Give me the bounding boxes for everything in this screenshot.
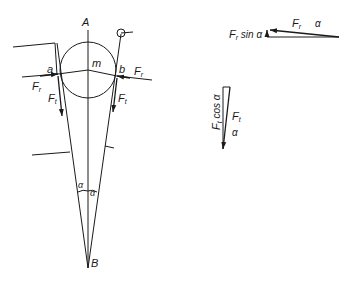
triangle-v-label-alpha: α [232, 127, 238, 138]
label-Fr-right: Fr [134, 65, 144, 78]
label-a: a [47, 63, 53, 75]
Ft-arrow-left [58, 76, 62, 116]
label-b: b [119, 63, 125, 75]
left-wall-bottom [32, 152, 70, 155]
triangle-h-Fr-arrow [270, 30, 339, 37]
label-A: A [81, 16, 89, 28]
force-diagram-canvas: A B m a b Fr Fr Ft Ft α α Fr sin α Fr α … [0, 0, 354, 285]
triangle-h-label-F: Fr [292, 17, 302, 30]
label-alpha-left: α [78, 180, 84, 190]
radial-force-line [22, 70, 152, 80]
left-incline-line [57, 43, 88, 268]
alpha-arc-left [78, 190, 88, 192]
triangle-v-Ft-arrow [223, 87, 230, 149]
triangle-h-label-sin: Fr sin α [229, 28, 262, 41]
label-m: m [92, 57, 101, 69]
label-Ft-right: Ft [118, 92, 128, 105]
right-wall-step [105, 146, 114, 148]
pivot-arm [121, 32, 133, 33]
triangle-h-label-alpha: α [315, 18, 321, 29]
label-alpha-right: α [90, 188, 96, 198]
triangle-v-label-F: Ft [232, 110, 242, 123]
label-Fr-left: Fr [32, 80, 42, 93]
triangle-v-label-cos: Ft cos α [210, 94, 223, 130]
label-B: B [91, 257, 98, 269]
label-Ft-left: Ft [48, 92, 58, 105]
